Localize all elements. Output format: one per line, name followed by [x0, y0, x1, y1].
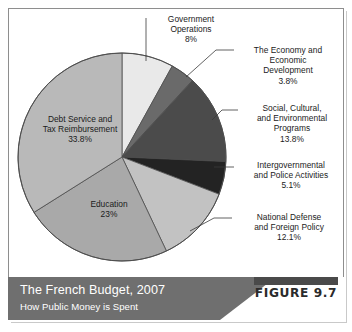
slice-label-national-defense-and-foreign-policy: National Defense and Foreign Policy 12.1…	[234, 212, 344, 243]
slice-label-education: Education 23%	[70, 199, 148, 219]
slice-label-intergovernmental-and-police-activities: Intergovernmental and Police Activities …	[236, 160, 346, 191]
figure-subtitle: How Public Money is Spent	[20, 301, 138, 312]
figure-tag-bar	[254, 277, 338, 285]
slice-label-the-economy-and-economic-development: The Economy and Economic Development 3.8…	[236, 45, 340, 86]
slice-label-government-operations: Government Operations 8%	[148, 14, 234, 45]
pie-slices	[18, 53, 226, 261]
leader-line-economy	[186, 50, 234, 77]
figure-container: Government Operations 8% The Economy and…	[0, 0, 352, 332]
slice-label-debt-service-and-tax-reimbursement: Debt Service and Tax Reimbursement 33.8%	[24, 114, 136, 145]
figure-tag: FIGURE 9.7	[252, 277, 340, 315]
figure-tag-label: FIGURE 9.7	[252, 286, 340, 300]
slice-label-social-cultural-and-environmental-programs: Social, Cultural, and Environmental Prog…	[240, 103, 344, 144]
figure-title: The French Budget, 2007	[20, 283, 165, 297]
